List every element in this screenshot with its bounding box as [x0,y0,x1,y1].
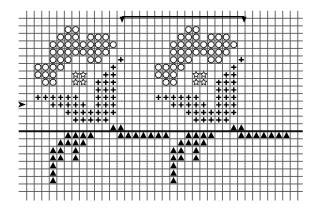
triangle-stitch-icon [178,139,185,145]
triangle-stitch-icon [148,132,155,138]
triangle-stitch-icon [133,132,140,138]
plus-stitch-icon [66,95,71,100]
circle-stitch-icon [95,49,101,55]
circle-stitch-icon [193,34,199,40]
triangle-stitch-icon [185,139,192,145]
plus-stitch-icon [118,57,123,62]
plus-stitch-icon [216,95,221,100]
triangle-stitch-icon [110,124,117,130]
triangle-stitch-icon [238,132,245,138]
circle-stitch-icon [163,72,169,78]
plus-stitch-icon [111,110,116,115]
triangle-stitch-icon [125,132,132,138]
plus-stitch-icon [178,102,183,107]
repeat-bracket [120,17,247,23]
circle-stitch-icon [185,26,191,32]
triangle-stitch-icon [276,132,283,138]
circle-stitch-icon [170,42,176,48]
circle-stitch-icon [163,79,169,85]
triangle-stitch-icon [118,132,125,138]
plus-stitch-icon [224,72,229,77]
triangle-stitch-icon [72,154,79,160]
plus-stitch-icon [96,80,101,85]
circle-stitch-icon [50,42,56,48]
circle-stitch-icon [185,34,191,40]
triangle-stitch-icon [50,177,57,183]
plus-stitch-icon [201,117,206,122]
circle-stitch-icon [65,42,71,48]
circle-stitch-icon [42,79,48,85]
plus-stitch-icon [224,102,229,107]
circle-stitch-icon [73,26,79,32]
plus-stitch-icon [231,102,236,107]
triangle-stitch-icon [170,169,177,175]
circle-stitch-icon [57,34,63,40]
plus-stitch-icon [231,95,236,100]
plus-stitch-icon [88,110,93,115]
plus-stitch-icon [231,110,236,115]
triangle-stitch-icon [193,139,200,145]
circle-stitch-icon [73,49,79,55]
plus-stitch-icon [216,102,221,107]
plus-stitch-icon [66,102,71,107]
star-stitch-icon [200,79,206,85]
circle-stitch-icon [193,49,199,55]
plus-stitch-icon [224,110,229,115]
triangle-stitch-icon [50,154,57,160]
circle-stitch-icon [35,72,41,78]
plus-stitch-icon [96,95,101,100]
circle-stitch-icon [80,42,86,48]
circle-stitch-icon [80,49,86,55]
plus-stitch-icon [35,95,40,100]
plus-stitch-icon [103,87,108,92]
plus-stitch-icon [201,102,206,107]
triangle-stitch-icon [246,132,253,138]
plus-stitch-icon [194,117,199,122]
circle-stitch-icon [65,57,71,63]
triangle-stitch-icon [87,132,94,138]
triangle-stitch-icon [140,132,147,138]
plus-stitch-icon [194,102,199,107]
triangle-stitch-icon [170,177,177,183]
circle-stitch-icon [155,72,161,78]
plus-stitch-icon [96,117,101,122]
circle-stitch-icon [50,49,56,55]
circle-stitch-icon [170,49,176,55]
plus-stitch-icon [224,80,229,85]
circle-stitch-icon [185,57,191,63]
triangle-stitch-icon [155,132,162,138]
circle-stitch-icon [170,57,176,63]
row-marker-arrow-icon [18,101,26,107]
plus-stitch-icon [231,80,236,85]
triangle-stitch-icon [57,139,64,145]
triangle-stitch-icon [72,147,79,153]
plus-stitch-icon [186,102,191,107]
star-stitch-icon [193,71,199,77]
triangle-stitch-icon [208,132,215,138]
plus-stitch-icon [224,117,229,122]
circle-stitch-icon [50,64,56,70]
plus-stitch-icon [209,117,214,122]
plus-stitch-icon [239,57,244,62]
circle-stitch-icon [208,34,214,40]
circle-stitch-icon [178,49,184,55]
plus-stitch-icon [96,110,101,115]
circle-stitch-icon [201,42,207,48]
triangle-stitch-icon [178,147,185,153]
triangle-stitch-icon [253,132,260,138]
triangle-stitch-icon [57,147,64,153]
triangle-stitch-icon [193,132,200,138]
triangle-stitch-icon [193,147,200,153]
circle-stitch-icon [50,57,56,63]
plus-stitch-icon [216,110,221,115]
triangle-stitch-icon [230,124,237,130]
triangle-stitch-icon [170,154,177,160]
plus-stitch-icon [171,102,176,107]
circle-stitch-icon [170,79,176,85]
circle-stitch-icon [95,42,101,48]
circle-stitch-icon [88,49,94,55]
triangle-stitch-icon [178,154,185,160]
circle-stitch-icon [216,49,222,55]
circle-stitch-icon [155,64,161,70]
triangle-stitch-icon [57,154,64,160]
